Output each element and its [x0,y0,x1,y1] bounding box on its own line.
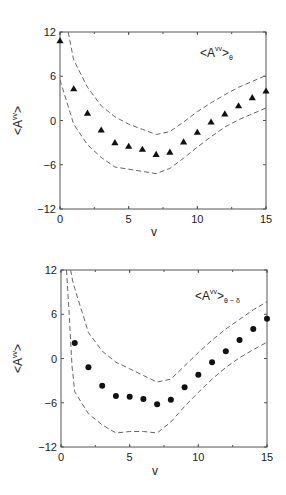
band-upper-line [68,32,266,135]
data-point-circle [250,326,256,332]
band-group [67,270,268,433]
data-point-circle [72,340,78,346]
data-point-triangle [235,102,242,108]
data-point-circle [140,396,146,402]
y-tick-label: −12 [37,203,56,215]
data-point-circle [154,401,160,407]
plot-panel-1: 051015−12−60612v<Avv><Avv>θ [11,26,272,239]
data-point-circle [85,364,91,370]
data-point-triangle [180,138,187,144]
y-tick-label: 12 [45,264,57,276]
data-point-triangle [98,126,105,132]
y-tick-label: −6 [43,159,56,171]
band-group [60,32,266,174]
legend-label: <Avv>θ − δ [195,288,240,304]
data-point-circle [182,384,188,390]
y-axis-label: <Avv> [11,344,25,373]
x-tick-label: 10 [191,213,203,225]
x-tick-label: 15 [260,213,272,225]
data-point-circle [99,383,105,389]
y-tick-label: −6 [44,397,57,409]
data-point-triangle [139,146,146,152]
data-point-circle [237,337,243,343]
band-lower-line [60,80,266,174]
data-point-circle [223,348,229,354]
figure: 051015−12−60612v<Avv><Avv>θ051015−12−606… [0,0,286,495]
data-point-circle [127,394,133,400]
data-point-triangle [166,149,173,155]
y-axis-label: <Avv> [11,106,25,135]
data-point-triangle [194,129,201,135]
x-tick-label: 15 [261,451,273,463]
axes-frame [60,32,266,209]
band-upper-line [71,270,267,382]
x-axis-label: v [151,225,157,239]
data-point-circle [113,393,119,399]
data-point-triangle [111,139,118,145]
x-axis-label: v [152,464,158,478]
data-point-triangle [249,94,256,100]
x-tick-label: 0 [58,451,64,463]
data-point-triangle [262,87,269,93]
x-tick-label: 0 [57,213,63,225]
data-point-triangle [153,151,160,157]
band-lower-line [67,270,268,433]
data-point-triangle [84,110,91,116]
data-point-triangle [221,110,228,116]
y-tick-label: 0 [50,115,56,127]
data-point-circle [195,372,201,378]
y-tick-label: 6 [50,70,56,82]
x-tick-label: 5 [127,451,133,463]
data-point-triangle [56,37,63,43]
data-point-triangle [125,143,132,149]
data-point-triangle [207,118,214,124]
data-point-circle [209,359,215,365]
y-tick-label: 0 [51,353,57,365]
data-point-circle [264,316,270,322]
data-point-circle [168,397,174,403]
y-tick-label: −12 [38,441,57,453]
x-tick-label: 10 [192,451,204,463]
x-tick-label: 5 [126,213,132,225]
plot-panel-2: 051015−12−60612v<Avv><Avv>θ − δ [11,264,273,478]
y-tick-label: 6 [51,308,57,320]
data-point-triangle [70,85,77,91]
legend-label: <Avv>θ [200,45,233,61]
y-tick-label: 12 [44,26,56,38]
